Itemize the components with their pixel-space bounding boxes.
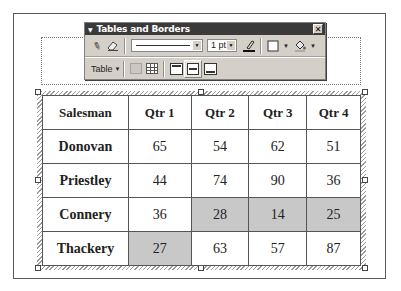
table-row: Thackery 27 63 57 87 (43, 232, 361, 266)
chevron-down-icon: ▼ (115, 66, 121, 72)
toolbar-title: Tables and Borders (96, 24, 189, 34)
chevron-down-icon[interactable]: ▼ (283, 43, 289, 49)
table-header-row: Salesman Qtr 1 Qtr 2 Qtr 3 Qtr 4 (43, 96, 361, 130)
resize-handle-middle-left[interactable] (35, 177, 41, 183)
table-row: Priestley 44 74 90 36 (43, 164, 361, 198)
salesman-cell[interactable]: Thackery (43, 232, 129, 266)
value-cell[interactable]: 54 (191, 130, 249, 164)
resize-handle-top-left[interactable] (35, 89, 41, 95)
resize-handle-top-right[interactable] (362, 89, 368, 95)
toolbar-separator (260, 38, 262, 54)
resize-handle-bottom-left[interactable] (35, 265, 41, 271)
line-weight-value: 1 pt (211, 40, 226, 50)
salesman-cell[interactable]: Donovan (43, 130, 129, 164)
salesman-cell[interactable]: Connery (43, 198, 129, 232)
line-weight-dropdown[interactable]: 1 pt ▼ (207, 39, 237, 52)
chevron-down-icon[interactable]: ▼ (193, 41, 201, 50)
resize-handle-middle-right[interactable] (362, 177, 368, 183)
close-icon[interactable]: ✕ (313, 24, 323, 34)
eraser-icon[interactable] (105, 38, 121, 54)
value-cell[interactable]: 36 (307, 164, 361, 198)
value-cell[interactable]: 65 (128, 130, 191, 164)
table-menu-label: Table (91, 64, 113, 74)
value-cell-shaded[interactable]: 14 (249, 198, 307, 232)
split-cells-icon[interactable] (144, 61, 160, 77)
header-cell[interactable]: Qtr 1 (128, 96, 191, 130)
toolbar-separator (124, 38, 126, 54)
table-menu-button[interactable]: Table ▼ (91, 64, 120, 74)
table-row: Donovan 65 54 62 51 (43, 130, 361, 164)
header-cell[interactable]: Qtr 2 (191, 96, 249, 130)
table-row: Connery 36 28 14 25 (43, 198, 361, 232)
resize-handle-bottom-right[interactable] (362, 265, 368, 271)
value-cell[interactable]: 57 (249, 232, 307, 266)
value-cell[interactable]: 36 (128, 198, 191, 232)
merge-cells-icon[interactable] (128, 61, 144, 77)
header-cell[interactable]: Salesman (43, 96, 129, 130)
value-cell[interactable]: 87 (307, 232, 361, 266)
header-cell[interactable]: Qtr 4 (307, 96, 361, 130)
value-cell-shaded[interactable]: 25 (307, 198, 361, 232)
chevron-down-icon[interactable]: ▼ (227, 41, 235, 50)
value-cell[interactable]: 63 (191, 232, 249, 266)
tables-and-borders-toolbar: ▼ Tables and Borders ✕ ✎ ▼ 1 pt ▼ ▼ ▼ (84, 22, 326, 80)
paint-bucket-icon[interactable] (292, 38, 308, 54)
outside-border-icon[interactable] (265, 38, 281, 54)
value-cell[interactable]: 44 (128, 164, 191, 198)
salesman-cell[interactable]: Priestley (43, 164, 129, 198)
value-cell-shaded[interactable]: 27 (128, 232, 191, 266)
toolbar-separator (123, 61, 125, 77)
align-top-icon[interactable] (168, 61, 184, 77)
toolbar-row-1: ✎ ▼ 1 pt ▼ ▼ ▼ (85, 35, 325, 57)
line-style-preview (136, 45, 190, 46)
align-bottom-icon[interactable] (202, 61, 218, 77)
chevron-down-icon[interactable]: ▼ (310, 43, 316, 49)
toolbar-row-2: Table ▼ (85, 57, 325, 79)
value-cell[interactable]: 51 (307, 130, 361, 164)
sales-table: Salesman Qtr 1 Qtr 2 Qtr 3 Qtr 4 Donovan… (42, 95, 361, 266)
pen-color-icon[interactable] (241, 38, 257, 54)
toolbar-separator (163, 61, 165, 77)
value-cell[interactable]: 74 (191, 164, 249, 198)
line-style-dropdown[interactable]: ▼ (131, 39, 203, 52)
value-cell[interactable]: 90 (249, 164, 307, 198)
toolbar-options-icon[interactable]: ▼ (88, 26, 92, 33)
header-cell[interactable]: Qtr 3 (249, 96, 307, 130)
value-cell-shaded[interactable]: 28 (191, 198, 249, 232)
value-cell[interactable]: 62 (249, 130, 307, 164)
toolbar-title-bar[interactable]: ▼ Tables and Borders ✕ (85, 23, 325, 35)
align-center-vertical-icon[interactable] (184, 60, 202, 78)
